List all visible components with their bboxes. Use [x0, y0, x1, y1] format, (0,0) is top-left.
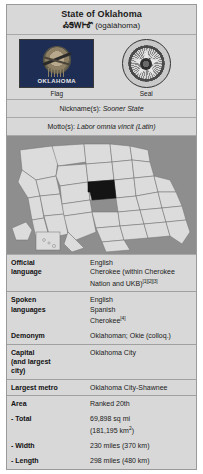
- value-line[interactable]: English: [90, 295, 193, 304]
- motto-value: Labor omnia vincit (Latin): [77, 123, 156, 130]
- row-value-demonym: Oklahoman; Okie (colloq.): [86, 328, 196, 344]
- value-line[interactable]: Cherokee (within Cherokee Nation and UKB…: [90, 268, 175, 287]
- table-row: Demonym Oklahoman; Okie (colloq.): [7, 328, 196, 344]
- value-line: 230 miles (370 km): [90, 441, 193, 450]
- us-locator-map[interactable]: [7, 136, 196, 255]
- cherokee-romanization: (ògàlàhoma): [95, 21, 140, 30]
- flag-state-label: OKLAHOMA: [20, 78, 93, 84]
- row-key-area: Area: [7, 395, 86, 411]
- flag-emblem[interactable]: OKLAHOMA Flag: [12, 39, 102, 97]
- motto-row: Motto(s): Labor omnia vincit (Latin): [7, 118, 196, 136]
- key-line: city): [11, 366, 83, 375]
- row-value-area-length: 298 miles (480 km): [86, 453, 196, 468]
- key-line: Spoken: [11, 295, 83, 304]
- oklahoma-highlight: [88, 180, 116, 200]
- table-row: - Length 298 miles (480 km): [7, 453, 196, 468]
- emblems-row: OKLAHOMA Flag Seal: [7, 35, 196, 100]
- state-infobox: State of Oklahoma ᎣᎦᎳᎰᎹ (ògàlàhoma) OKLA…: [6, 4, 197, 470]
- table-row: Largest metro Oklahoma City-Shawnee: [7, 379, 196, 395]
- facts-table: Official language English Cherokee (with…: [7, 255, 196, 469]
- value-line-metric: (181,195 km2): [90, 424, 193, 436]
- table-row: Capital (and largest city) Oklahoma City: [7, 344, 196, 379]
- table-row: - Width 230 miles (370 km): [7, 438, 196, 453]
- infobox-page: State of Oklahoma ᎣᎦᎳᎰᎹ (ògàlàhoma) OKLA…: [0, 0, 203, 474]
- key-line: Official: [11, 258, 83, 267]
- key-line: - Total: [11, 414, 83, 423]
- key-line: languages: [11, 305, 83, 314]
- row-value-official-language: English Cherokee (within Cherokee Nation…: [86, 255, 196, 292]
- nickname-value: Sooner State: [103, 105, 144, 112]
- table-row: Area Ranked 20th: [7, 395, 196, 411]
- citation-ref[interactable]: [1][2][3]: [143, 278, 158, 284]
- row-value-capital: Oklahoma City: [86, 344, 196, 379]
- row-value-largest-metro: Oklahoma City-Shawnee: [86, 379, 196, 395]
- row-key-area-total: - Total: [7, 411, 86, 438]
- motto-label: Motto(s):: [47, 123, 75, 130]
- flag-caption: Flag: [12, 88, 102, 97]
- row-value-area-total: 69,898 sq mi (181,195 km2): [86, 411, 196, 438]
- citation-ref[interactable]: [4]: [120, 315, 125, 321]
- row-key-official-language: Official language: [7, 255, 86, 292]
- seal-emblem[interactable]: Seal: [102, 39, 192, 97]
- row-value-spoken-languages: English Spanish Cherokee[4]: [86, 292, 196, 329]
- row-key-demonym: Demonym: [7, 328, 86, 344]
- value-line-wrap: Cherokee (within Cherokee Nation and UKB…: [90, 267, 193, 288]
- key-line: Demonym: [11, 331, 83, 340]
- state-name-native: ᎣᎦᎳᎰᎹ (ògàlàhoma): [10, 20, 193, 31]
- row-key-area-width: - Width: [7, 438, 86, 453]
- nickname-row: Nickname(s): Sooner State: [7, 100, 196, 118]
- value-line[interactable]: English: [90, 258, 193, 267]
- row-key-area-length: - Length: [7, 453, 86, 468]
- row-key-spoken-languages: Spoken languages: [7, 292, 86, 329]
- infobox-title: State of Oklahoma ᎣᎦᎳᎰᎹ (ògàlàhoma): [7, 5, 196, 35]
- value-line: 69,898 sq mi: [90, 414, 193, 423]
- row-key-largest-metro: Largest metro: [7, 379, 86, 395]
- table-row: Spoken languages English Spanish Cheroke…: [7, 292, 196, 329]
- key-line: language: [11, 267, 83, 276]
- value-line: Oklahoman; Okie (colloq.): [90, 331, 193, 340]
- key-line: - Width: [11, 441, 83, 450]
- value-line: Ranked 20th: [90, 399, 193, 408]
- value-line: 298 miles (480 km): [90, 456, 193, 465]
- value-line[interactable]: Cherokee: [90, 317, 120, 324]
- key-line: - Length: [11, 456, 83, 465]
- value-line[interactable]: Oklahoma City-Shawnee: [90, 383, 193, 392]
- row-value-area: Ranked 20th: [86, 395, 196, 411]
- state-name: State of Oklahoma: [10, 9, 193, 20]
- key-line: Capital: [11, 348, 83, 357]
- seal-caption: Seal: [102, 88, 192, 97]
- seal-center-medallion-icon: [140, 58, 152, 70]
- table-row: - Total 69,898 sq mi (181,195 km2): [7, 411, 196, 438]
- value-line[interactable]: Spanish: [90, 305, 193, 314]
- oklahoma-flag-image[interactable]: OKLAHOMA: [19, 39, 94, 88]
- key-line: Area: [11, 399, 83, 408]
- shield-fringe-icon: [48, 68, 66, 77]
- nickname-label: Nickname(s):: [59, 105, 100, 112]
- value-line[interactable]: Oklahoma City: [90, 348, 193, 357]
- row-value-area-width: 230 miles (370 km): [86, 438, 196, 453]
- key-line: (and largest: [11, 357, 83, 366]
- table-row: Official language English Cherokee (with…: [7, 255, 196, 292]
- row-key-capital: Capital (and largest city): [7, 344, 86, 379]
- cherokee-syllabary: ᎣᎦᎳᎰᎹ: [63, 21, 93, 30]
- value-line-wrap: Cherokee[4]: [90, 314, 193, 326]
- key-line: Largest metro: [11, 383, 83, 392]
- oklahoma-seal-image[interactable]: [122, 39, 171, 88]
